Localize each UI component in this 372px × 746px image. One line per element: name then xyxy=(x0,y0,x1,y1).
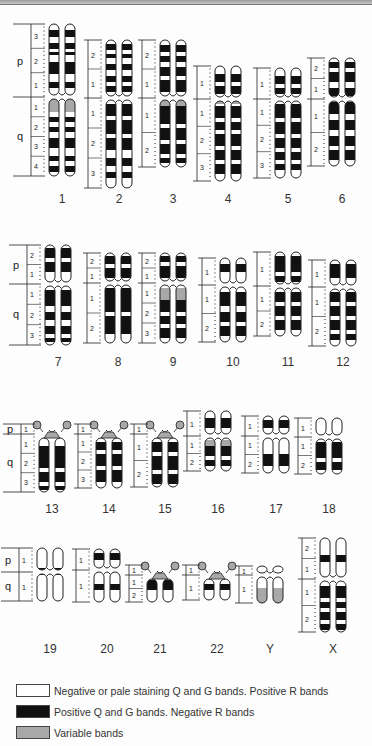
chromosome-label-11: 11 xyxy=(282,355,294,369)
svg-text:1: 1 xyxy=(81,426,85,433)
centromere-icon xyxy=(230,281,236,289)
satellite-icon xyxy=(120,421,128,429)
svg-text:1: 1 xyxy=(315,271,319,278)
centromere-icon xyxy=(55,280,61,288)
svg-text:1: 1 xyxy=(145,273,149,280)
satellite-icon xyxy=(141,562,149,570)
svg-text:2: 2 xyxy=(260,136,264,143)
svg-text:3: 3 xyxy=(145,330,149,337)
svg-text:2: 2 xyxy=(314,65,318,72)
svg-text:2: 2 xyxy=(90,325,94,332)
satellite-icon xyxy=(33,421,41,429)
chromosome-22: 11 xyxy=(182,560,236,605)
centromere-icon xyxy=(115,279,121,287)
svg-text:1: 1 xyxy=(137,444,141,451)
legend: Negative or pale staining Q and G bands.… xyxy=(16,680,328,743)
satellite-icon xyxy=(63,421,71,429)
chromosome-2: 21123 xyxy=(84,35,134,193)
svg-text:2: 2 xyxy=(315,328,319,335)
svg-text:1: 1 xyxy=(301,443,305,450)
chromosome-label-17: 17 xyxy=(269,502,282,516)
svg-text:1: 1 xyxy=(189,585,193,592)
svg-text:3: 3 xyxy=(200,164,204,171)
svg-text:3: 3 xyxy=(91,170,95,177)
svg-text:1: 1 xyxy=(30,271,34,278)
p-arm-label: p xyxy=(17,55,23,67)
svg-text:1: 1 xyxy=(205,269,209,276)
chromosome-21: 112 xyxy=(125,562,179,607)
centromere-icon xyxy=(326,433,332,441)
svg-text:1: 1 xyxy=(34,82,38,89)
svg-text:1: 1 xyxy=(91,110,95,117)
centromere-icon xyxy=(340,283,346,291)
chromosome-17: 112 xyxy=(241,411,291,478)
svg-text:2: 2 xyxy=(90,258,94,265)
svg-text:1: 1 xyxy=(132,567,136,574)
chromosome-11: 112 xyxy=(253,247,303,341)
svg-text:2: 2 xyxy=(301,462,305,469)
svg-text:2: 2 xyxy=(81,458,85,465)
svg-text:3: 3 xyxy=(24,479,28,486)
negative-band-swatch xyxy=(16,684,50,697)
satellite-icon xyxy=(228,562,236,570)
svg-text:1: 1 xyxy=(305,566,309,573)
chromosome-12: 112 xyxy=(308,255,358,351)
svg-text:2: 2 xyxy=(34,58,38,65)
chromosome-4: 1123 xyxy=(193,61,243,186)
chromosome-15: 112 xyxy=(130,420,184,492)
centromere-icon xyxy=(104,566,110,574)
chromosome-label-16: 16 xyxy=(211,502,224,516)
svg-text:1: 1 xyxy=(22,584,26,591)
svg-text:3: 3 xyxy=(260,162,264,169)
svg-text:2: 2 xyxy=(24,460,28,467)
chromosome-label-9: 9 xyxy=(170,355,177,369)
p-arm-label: p xyxy=(7,423,13,435)
svg-text:2: 2 xyxy=(190,459,194,466)
svg-text:3: 3 xyxy=(30,332,34,339)
variable-band-swatch xyxy=(16,726,50,739)
centromere-icon xyxy=(170,279,176,287)
svg-text:1: 1 xyxy=(205,296,209,303)
chromosome-label-10: 10 xyxy=(226,355,239,369)
svg-text:1: 1 xyxy=(90,273,94,280)
svg-text:1: 1 xyxy=(248,423,252,430)
svg-text:1: 1 xyxy=(260,109,264,116)
svg-text:1: 1 xyxy=(260,81,264,88)
svg-text:3: 3 xyxy=(34,143,38,150)
legend-item-variable: Variable bands xyxy=(16,722,328,743)
chromosome-label-2: 2 xyxy=(116,192,123,206)
centromere-icon xyxy=(285,282,291,290)
svg-text:1: 1 xyxy=(145,81,149,88)
chromosome-X: 2112 xyxy=(298,533,348,637)
satellite-icon xyxy=(90,421,98,429)
chromosome-6: 2112 xyxy=(307,53,357,171)
chromosome-label-22: 22 xyxy=(210,642,223,656)
q-arm-label: q xyxy=(5,580,11,592)
chromosome-label-Y: Y xyxy=(266,642,274,656)
chromosome-18: 112 xyxy=(294,413,344,479)
positive-band-swatch xyxy=(16,705,50,718)
svg-text:1: 1 xyxy=(24,426,28,433)
svg-text:1: 1 xyxy=(242,568,246,575)
q-arm-label: q xyxy=(17,130,23,142)
chromosome-label-8: 8 xyxy=(115,355,122,369)
legend-item-positive: Positive Q and G bands. Negative R bands xyxy=(16,701,328,722)
chromosome-3: 2112 xyxy=(138,35,188,172)
chromosome-label-4: 4 xyxy=(225,192,232,206)
chromosome-label-1: 1 xyxy=(59,192,66,206)
svg-text:1: 1 xyxy=(315,299,319,306)
svg-text:2: 2 xyxy=(145,147,149,154)
chromosome-20: 11 xyxy=(72,544,122,607)
chromosome-label-21: 21 xyxy=(153,642,166,656)
centromere-icon xyxy=(267,571,273,579)
svg-text:2: 2 xyxy=(145,52,149,59)
svg-text:1: 1 xyxy=(22,557,26,564)
p-arm-label: p xyxy=(13,259,19,271)
svg-text:2: 2 xyxy=(248,461,252,468)
chromosome-label-14: 14 xyxy=(102,502,115,516)
chromosome-label-12: 12 xyxy=(336,355,349,369)
svg-text:2: 2 xyxy=(137,471,141,478)
chromosome-label-13: 13 xyxy=(45,502,58,516)
svg-text:2: 2 xyxy=(260,321,264,328)
svg-text:1: 1 xyxy=(242,586,246,593)
